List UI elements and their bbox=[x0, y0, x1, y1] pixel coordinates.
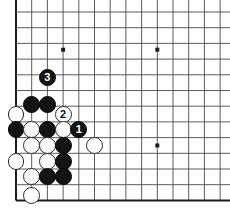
stone-move-number: 3 bbox=[44, 72, 50, 83]
stone-black[interactable] bbox=[55, 153, 72, 170]
stone-black[interactable] bbox=[39, 96, 56, 113]
stone-black[interactable] bbox=[39, 121, 56, 138]
stone-white[interactable] bbox=[39, 153, 56, 170]
stone-white[interactable] bbox=[39, 137, 56, 154]
stone-move-number: 1 bbox=[76, 124, 82, 135]
stone-white-move-2[interactable]: 2 bbox=[55, 106, 72, 123]
star-point-0 bbox=[61, 48, 65, 52]
stone-black[interactable] bbox=[55, 137, 72, 154]
go-diagram-figure: 213 bbox=[0, 0, 230, 213]
stone-white[interactable] bbox=[86, 137, 103, 154]
star-point-1 bbox=[155, 48, 159, 52]
stone-black[interactable] bbox=[55, 168, 72, 185]
star-point-2 bbox=[155, 143, 159, 147]
stone-white[interactable] bbox=[23, 137, 40, 154]
stone-white[interactable] bbox=[8, 153, 25, 170]
stone-white[interactable] bbox=[55, 121, 72, 138]
stone-white[interactable] bbox=[8, 106, 25, 123]
stone-move-number: 2 bbox=[60, 108, 66, 119]
